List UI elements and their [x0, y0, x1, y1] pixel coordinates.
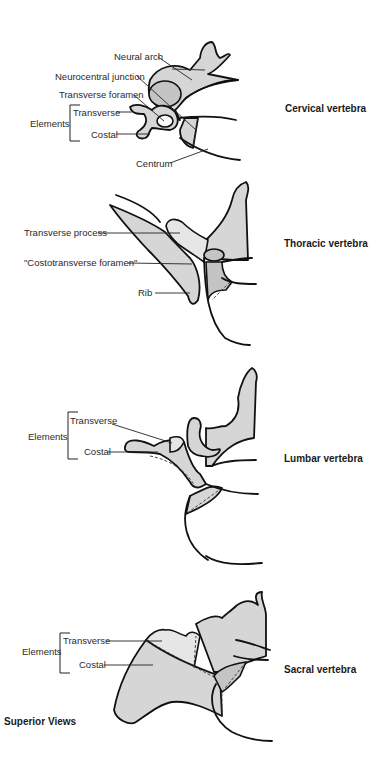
title-thoracic-vertebra: Thoracic vertebra [284, 238, 368, 249]
label-costal-lumbar: Costal [84, 446, 111, 457]
vertebrae-diagram: Neural arch Neurocentral junction Transv… [0, 0, 370, 781]
label-neurocentral-junction: Neurocentral junction [55, 71, 145, 82]
label-costal-sacral: Costal [79, 659, 106, 670]
title-cervical-vertebra: Cervical vertebra [285, 103, 367, 114]
label-costotransverse-foramen: "Costotransverse foramen" [24, 257, 137, 268]
label-centrum: Centrum [136, 158, 173, 169]
label-transverse-lumbar: Transverse [70, 415, 117, 426]
sacral-vertebra-drawing [114, 592, 272, 741]
label-transverse-foramen: Transverse foramen [59, 89, 144, 100]
label-transverse-sacral: Transverse [63, 635, 110, 646]
label-transverse-cervical: Transverse [73, 107, 120, 118]
label-costal-cervical: Costal [91, 129, 118, 140]
title-lumbar-vertebra: Lumbar vertebra [284, 453, 363, 464]
label-rib: Rib [138, 287, 152, 298]
label-elements-lumbar: Elements [28, 431, 68, 442]
label-transverse-process: Transverse process [24, 227, 107, 238]
label-neural-arch: Neural arch [114, 51, 163, 62]
view-label: Superior Views [4, 716, 77, 727]
lumbar-vertebra-drawing [125, 368, 258, 560]
title-sacral-vertebra: Sacral vertebra [284, 664, 357, 675]
label-elements-cervical: Elements [30, 118, 70, 129]
label-elements-sacral: Elements [22, 646, 62, 657]
